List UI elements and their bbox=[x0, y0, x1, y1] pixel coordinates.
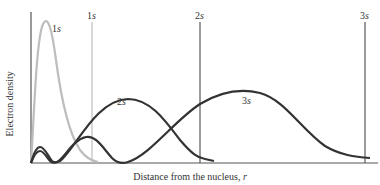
label-marker-3s: 3s bbox=[360, 11, 369, 21]
label-curve-1s: 1s bbox=[52, 24, 61, 34]
label-curve-2s: 2s bbox=[117, 97, 126, 107]
label-marker-2s: 2s bbox=[195, 11, 204, 21]
label-curve-3s: 3s bbox=[242, 96, 251, 106]
curve-2s bbox=[31, 99, 214, 163]
curve-1s bbox=[31, 21, 98, 163]
x-axis-label: Distance from the nucleus, r bbox=[0, 171, 380, 182]
y-axis-label: Electron density bbox=[4, 71, 15, 136]
label-marker-1s: 1s bbox=[87, 11, 96, 21]
